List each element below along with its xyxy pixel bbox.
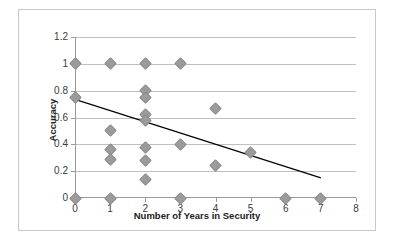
x-tick-label: 5 — [248, 204, 254, 214]
x-tick-mark — [145, 198, 146, 202]
x-tick-mark — [216, 198, 217, 202]
data-point-marker — [69, 192, 82, 205]
x-tick-label: 4 — [213, 204, 219, 214]
gridline — [75, 64, 356, 65]
data-point-marker — [174, 192, 187, 205]
y-tick-label: 0.8 — [54, 86, 68, 96]
x-tick-label: 0 — [72, 204, 78, 214]
data-point-marker — [104, 192, 117, 205]
y-tick-label: 1.2 — [54, 32, 68, 42]
data-point-marker — [139, 57, 152, 70]
data-point-marker — [104, 125, 117, 138]
data-point-marker — [174, 57, 187, 70]
data-point-marker — [69, 91, 82, 104]
data-point-marker — [104, 153, 117, 166]
x-tick-label: 1 — [107, 204, 113, 214]
y-tick-label: 1 — [62, 59, 68, 69]
data-point-marker — [139, 173, 152, 186]
x-tick-label: 2 — [142, 204, 148, 214]
data-point-marker — [69, 57, 82, 70]
plot-area: 00.20.40.60.811.2 012345678 — [75, 37, 356, 198]
x-tick-mark — [251, 198, 252, 202]
data-point-marker — [279, 192, 292, 205]
y-tick-label: 0 — [62, 193, 68, 203]
data-point-marker — [139, 141, 152, 154]
scatter-chart-figure: Accuracy Number of Years in Security 00.… — [18, 9, 376, 231]
x-tick-label: 7 — [318, 204, 324, 214]
x-tick-label: 8 — [353, 204, 359, 214]
data-point-marker — [174, 138, 187, 151]
gridline — [75, 144, 356, 145]
data-point-marker — [139, 154, 152, 167]
x-tick-mark — [356, 198, 357, 202]
y-tick-label: 0.6 — [54, 113, 68, 123]
y-tick-label: 0.2 — [54, 166, 68, 176]
y-tick-label: 0.4 — [54, 139, 68, 149]
data-point-marker — [104, 57, 117, 70]
data-point-marker — [244, 146, 257, 159]
gridline — [75, 37, 356, 38]
x-tick-label: 3 — [178, 204, 184, 214]
data-point-marker — [209, 102, 222, 115]
x-tick-label: 6 — [283, 204, 289, 214]
data-point-marker — [315, 192, 328, 205]
gridline — [75, 91, 356, 92]
gridline — [75, 118, 356, 119]
